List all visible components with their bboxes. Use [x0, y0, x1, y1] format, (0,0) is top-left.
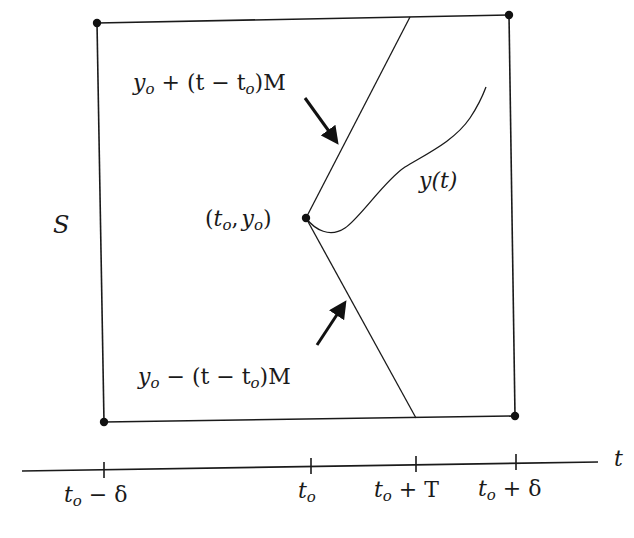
solution-curve	[306, 87, 486, 233]
time-axis	[22, 454, 598, 478]
curve-label: y(t)	[418, 168, 457, 193]
tick-label-t0: to	[298, 478, 316, 506]
lower-bound-arrow-icon	[317, 304, 344, 345]
upper-bound-line	[306, 17, 410, 218]
lower-bound-label: yo − (t − to)M	[137, 364, 291, 392]
existence-region-diagram: S yo + (t − to)M yo − (t − to)M (to,yo) …	[0, 0, 634, 538]
initial-point-label: (to,yo)	[205, 206, 272, 234]
corner-top-left	[93, 19, 101, 27]
corner-bottom-right	[511, 412, 519, 420]
tick-label-plus-T: to + T	[374, 477, 439, 505]
region-label: S	[53, 211, 69, 239]
tick-label-lower-delta: to − δ	[64, 482, 128, 510]
axis-label: t	[614, 446, 623, 471]
lower-bound-line	[306, 218, 416, 418]
upper-bound-label: yo + (t − to)M	[132, 70, 286, 98]
upper-bound-arrow-icon	[305, 98, 336, 141]
tick-label-upper-delta: to + δ	[478, 476, 542, 504]
initial-point	[302, 214, 310, 222]
corner-bottom-left	[100, 418, 108, 426]
corner-top-right	[505, 11, 513, 19]
